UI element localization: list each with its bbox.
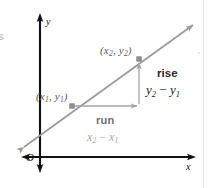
run-expression-label: x2 − x1 xyxy=(87,131,118,145)
point-1-close-paren: ) xyxy=(64,90,68,102)
point-marker-2 xyxy=(136,56,142,62)
rise-expression-label: y2 − y1 xyxy=(146,83,180,98)
x-axis xyxy=(21,154,196,161)
y-axis-label: y xyxy=(46,17,50,27)
rise-expr-minus: − xyxy=(156,82,170,97)
point-2-coordinate-label: (x2, y2) xyxy=(100,45,132,58)
origin-label: O xyxy=(26,152,34,163)
run-label: run xyxy=(96,115,114,126)
point-marker-1 xyxy=(69,103,75,109)
point-2-comma-y: , y xyxy=(113,44,124,56)
page-edge-glyph: s xyxy=(0,31,4,42)
point-1-coordinate-label: (x1, y1) xyxy=(36,91,68,104)
rise-label: rise xyxy=(157,68,178,80)
run-expr-minus: − xyxy=(96,130,109,144)
point-2-close-paren: ) xyxy=(128,44,132,56)
page-speck xyxy=(198,52,200,54)
rise-expr-y1-subscript: 1 xyxy=(176,89,180,99)
point-1-open-paren: (x xyxy=(36,90,45,102)
slope-diagram-figure: (x2, y2) (x1, y1) rise y2 − y1 run x2 − … xyxy=(0,0,210,188)
point-2-open-paren: (x xyxy=(100,44,109,56)
x-axis-label: x xyxy=(186,162,190,172)
run-expr-x1-subscript: 1 xyxy=(114,136,118,145)
page-edge-rule xyxy=(203,0,204,188)
point-1-comma-y: , y xyxy=(49,90,60,102)
